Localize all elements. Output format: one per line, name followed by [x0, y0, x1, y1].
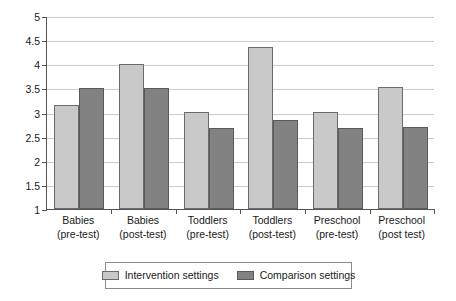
bar-group — [176, 17, 241, 209]
x-axis-label-line-2: (pre-test) — [175, 228, 240, 242]
x-axis-label-line-1: Toddlers — [252, 214, 292, 226]
bar — [184, 112, 209, 209]
x-axis-label: Preschool(pre-test) — [305, 214, 370, 241]
x-axis-label: Toddlers(pre-test) — [175, 214, 240, 241]
x-axis-tick-mark — [434, 209, 435, 214]
y-axis-tick-label: 5 — [34, 12, 40, 23]
bar-chart: 54.543.532.521.51 Babies(pre-test)Babies… — [0, 0, 456, 301]
y-axis-tick-label: 3.5 — [25, 84, 40, 95]
bar-group — [306, 17, 371, 209]
x-axis-labels: Babies(pre-test)Babies(post-test)Toddler… — [46, 214, 434, 252]
x-axis-label-line-1: Preschool — [314, 214, 361, 226]
legend-label: Comparison settings — [260, 270, 356, 281]
bar-group — [241, 17, 306, 209]
y-axis-tick-label: 1.5 — [25, 181, 40, 192]
y-axis-tick-label: 2.5 — [25, 132, 40, 143]
y-axis-tick-label: 4 — [34, 60, 40, 71]
bar — [144, 88, 169, 209]
x-axis-label-line-2: (pre-test) — [46, 228, 111, 242]
bar — [338, 128, 363, 209]
x-axis-label: Toddlers(post-test) — [240, 214, 305, 241]
x-axis-label-line-2: (post-test) — [240, 228, 305, 242]
bar — [313, 112, 338, 209]
x-axis-label-line-2: (post-test) — [111, 228, 176, 242]
bar — [209, 128, 234, 209]
bar — [248, 47, 273, 209]
bar — [119, 64, 144, 209]
x-axis-label-line-2: (post test) — [369, 228, 434, 242]
y-axis-tick-label: 2 — [34, 157, 40, 168]
legend-label: Intervention settings — [125, 270, 219, 281]
x-axis-label: Babies(post-test) — [111, 214, 176, 241]
bar — [79, 88, 104, 209]
bar-group — [370, 17, 435, 209]
x-axis-label-line-2: (pre-test) — [305, 228, 370, 242]
y-axis-tick-mark — [42, 210, 47, 211]
bar — [273, 120, 298, 209]
x-axis-label-line-1: Babies — [127, 214, 159, 226]
chart-legend: Intervention settingsComparison settings — [105, 262, 352, 289]
legend-item: Comparison settings — [237, 270, 356, 281]
bar — [378, 87, 403, 209]
plot-area: 54.543.532.521.51 — [46, 17, 434, 210]
y-axis-tick-label: 1 — [34, 205, 40, 216]
legend-swatch-comparison — [237, 271, 254, 280]
y-axis-tick-label: 3 — [34, 108, 40, 119]
x-axis-label: Babies(pre-test) — [46, 214, 111, 241]
bar-group — [112, 17, 177, 209]
legend-swatch-intervention — [102, 271, 119, 280]
x-axis-label-line-1: Toddlers — [188, 214, 228, 226]
bar — [54, 105, 79, 209]
bar-group — [47, 17, 112, 209]
legend-item: Intervention settings — [102, 270, 219, 281]
x-axis-label-line-1: Babies — [62, 214, 94, 226]
x-axis-label-line-1: Preschool — [378, 214, 425, 226]
bar — [403, 127, 428, 209]
y-axis-tick-label: 4.5 — [25, 36, 40, 47]
x-axis-label: Preschool(post test) — [369, 214, 434, 241]
